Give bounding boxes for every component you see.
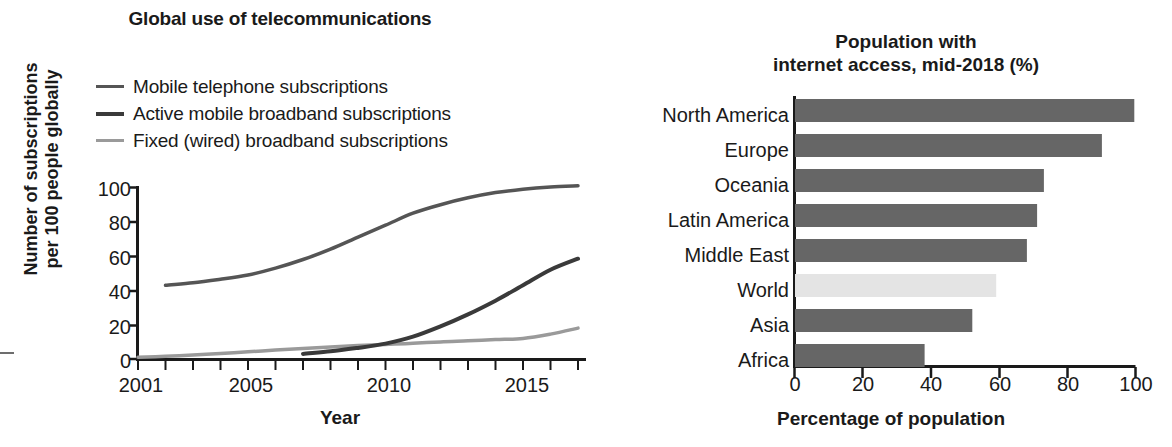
bar-middle-east bbox=[795, 239, 1027, 262]
line-chart-plot bbox=[0, 0, 586, 447]
series-line-fixed-wired-broadband bbox=[138, 328, 578, 357]
bar-latin-america bbox=[795, 204, 1037, 227]
bar-x-tick-label: 60 bbox=[970, 373, 1030, 396]
series-line-active-mobile-broadband bbox=[303, 259, 578, 354]
bar-chart-bars bbox=[795, 99, 1134, 367]
bar-oceania bbox=[795, 169, 1044, 192]
bar-chart-x-axis-label: Percentage of population bbox=[691, 408, 1091, 430]
bar-africa bbox=[795, 344, 925, 367]
bar-x-tick-label: 80 bbox=[1038, 373, 1098, 396]
bar-europe bbox=[795, 134, 1102, 157]
line-chart-panel: Global use of telecommunications Mobile … bbox=[0, 0, 586, 447]
bar-world bbox=[795, 274, 996, 297]
page-edge-artifact bbox=[0, 352, 14, 354]
series-line-mobile-telephone bbox=[166, 186, 579, 285]
figure-container: Global use of telecommunications Mobile … bbox=[0, 0, 1172, 447]
bar-x-tick-label: 0 bbox=[765, 373, 825, 396]
bar-x-tick-label: 100 bbox=[1106, 373, 1166, 396]
bar-x-tick-label: 20 bbox=[833, 373, 893, 396]
bar-x-tick-label: 40 bbox=[901, 373, 961, 396]
line-chart-x-axis-label: Year bbox=[140, 407, 540, 429]
bar-north-america bbox=[795, 99, 1134, 122]
bar-chart-panel: Population with internet access, mid-201… bbox=[586, 0, 1172, 447]
x-axis-ticks bbox=[138, 360, 578, 370]
y-axis-ticks bbox=[130, 188, 137, 360]
bar-asia bbox=[795, 309, 972, 332]
